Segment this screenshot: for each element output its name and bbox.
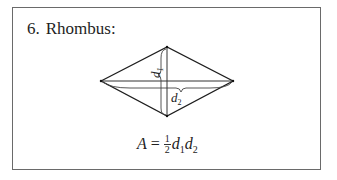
area-formula: A=12d1d2 — [137, 135, 198, 156]
formula-lhs: A — [137, 135, 147, 152]
label-d1: d1 — [148, 68, 165, 79]
formula-equals: = — [151, 135, 160, 152]
fraction-half: 12 — [164, 134, 171, 155]
d1-brace — [158, 49, 166, 115]
formula-d2: d2 — [185, 135, 198, 152]
formula-d1: d1 — [172, 135, 185, 152]
label-d2: d2 — [171, 90, 182, 107]
